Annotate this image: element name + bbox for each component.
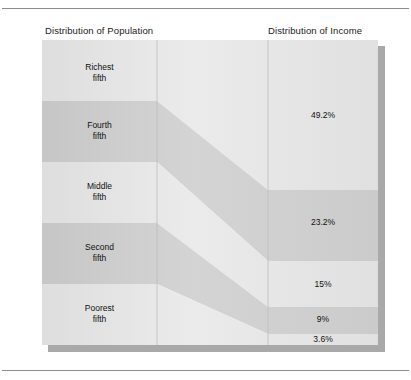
sankey-figure: Richest fifth Fourth fifth Middle fifth … <box>42 40 378 345</box>
figure-drop-shadow-bottom <box>48 345 385 352</box>
income-column-title: Distribution of Income <box>268 25 362 36</box>
population-column-title: Distribution of Population <box>45 25 153 36</box>
top-divider-rule <box>2 8 409 9</box>
bottom-divider-rule <box>2 370 409 371</box>
figure-page: Distribution of Population Distribution … <box>0 0 411 380</box>
flow-diagram-svg <box>42 40 378 345</box>
figure-drop-shadow-right <box>378 46 385 349</box>
